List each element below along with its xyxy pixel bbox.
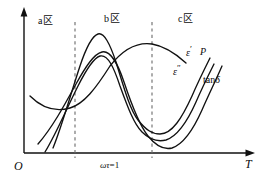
x-tick-label-omega-tau: ωτ=1: [100, 161, 119, 170]
diagram-canvas: [0, 0, 263, 182]
x-axis: [24, 150, 255, 157]
curve-label-p: P: [200, 47, 206, 57]
region-c-zone-glyph: 区: [182, 13, 193, 24]
curve-label-eps-double-prime: ε″: [173, 64, 181, 77]
region-label-c: c区: [178, 14, 193, 24]
dielectric-relaxation-diagram: a区 b区 c区 O T ωτ=1 ε′ P ε″ tanδ: [0, 0, 263, 182]
origin-label: O: [14, 160, 23, 172]
tan-text: tan: [203, 74, 215, 85]
x-axis-arrowhead: [246, 150, 256, 157]
region-a-zone-glyph: 区: [42, 15, 53, 26]
y-axis-arrowhead: [21, 7, 28, 17]
equals-one-text: =1: [110, 160, 120, 170]
delta-symbol: δ: [215, 74, 220, 85]
region-label-a: a区: [38, 16, 53, 26]
curve-label-tan-delta: tanδ: [203, 75, 220, 85]
eps-prime-mark: ′: [190, 44, 192, 54]
y-axis: [21, 7, 28, 153]
curve-label-eps-prime: ε′: [186, 45, 192, 58]
x-axis-label: T: [245, 158, 252, 170]
omega-tau-text: ωτ: [100, 160, 110, 170]
region-b-zone-glyph: 区: [109, 13, 120, 24]
curve-tan-delta: [38, 52, 222, 149]
eps-double-prime-mark: ″: [177, 63, 181, 73]
region-label-b: b区: [104, 14, 120, 24]
